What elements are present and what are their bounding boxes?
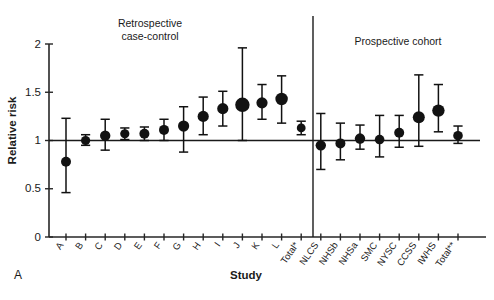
x-axis-tick-label: L (269, 240, 281, 251)
data-point-marker (178, 120, 189, 131)
x-axis-tick-label: F (151, 240, 163, 251)
data-point-marker (375, 135, 385, 145)
x-axis-tick-label: NYSC (375, 240, 399, 268)
x-axis-tick-label: E (131, 240, 144, 252)
y-axis-title: Relative risk (6, 96, 18, 164)
data-point-marker (355, 133, 365, 143)
x-axis-tick-label: NLCS (297, 240, 321, 267)
x-axis-tick-label: NHSa (336, 239, 360, 267)
group-title-prospective: Prospective cohort (355, 35, 442, 47)
x-axis-tick-label: K (249, 239, 262, 251)
data-point-marker (61, 157, 71, 167)
group-title-retrospective: Retrospective (118, 17, 182, 29)
forest-plot-figure: 00.511.52Retrospectivecase-controlProspe… (0, 0, 494, 300)
group-title-retrospective-line2: case-control (121, 30, 178, 42)
data-point-marker (217, 103, 228, 114)
data-point-marker (120, 129, 129, 138)
x-axis-tick-label: G (170, 240, 183, 252)
y-axis-tick-label: 1.5 (25, 86, 41, 98)
y-axis-tick-label: 1 (35, 134, 41, 146)
data-point-marker (453, 131, 463, 141)
y-axis-tick-label: 2 (35, 38, 41, 50)
x-axis-tick-label: CCSS (394, 240, 418, 268)
x-axis-tick-label: J (230, 240, 242, 250)
data-point-marker (159, 125, 169, 135)
data-point-marker (413, 111, 425, 123)
data-point-marker (335, 138, 345, 148)
data-point-marker (432, 104, 444, 116)
x-axis-tick-label: C (92, 240, 105, 252)
data-point-marker (139, 129, 149, 139)
data-point-marker (275, 93, 287, 105)
x-axis-tick-label: NHSb (316, 240, 340, 267)
x-axis-tick-label: I (212, 240, 223, 248)
y-axis-tick-label: 0.5 (25, 182, 41, 194)
x-axis-tick-label: B (73, 240, 86, 252)
data-point-marker (235, 98, 249, 112)
panel-letter: A (14, 268, 22, 282)
x-axis-title: Study (230, 269, 263, 281)
data-point-marker (81, 136, 90, 145)
data-point-marker (198, 111, 209, 122)
x-axis-tick-label: A (53, 239, 66, 251)
data-point-marker (100, 130, 110, 140)
y-axis-tick-label: 0 (35, 231, 41, 243)
relative-risk-forest-plot: 00.511.52Retrospectivecase-controlProspe… (0, 0, 494, 300)
data-point-marker (297, 124, 306, 133)
data-point-marker (316, 140, 326, 150)
x-axis-tick-label: Total** (433, 240, 458, 269)
x-axis-tick-label: H (190, 240, 203, 252)
data-point-marker (256, 97, 267, 108)
data-point-marker (394, 128, 404, 138)
x-axis-tick-label: D (111, 240, 124, 252)
